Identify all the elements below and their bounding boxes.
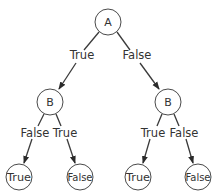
leaf-left-true: True: [6, 164, 32, 190]
leaf-left-false: False: [67, 164, 93, 190]
edge-arrow: [186, 139, 193, 163]
edge-arrow: [140, 63, 159, 89]
node-left-b: B: [37, 89, 63, 115]
edge-label-false: False: [123, 48, 152, 62]
edge-label-false: False: [21, 126, 50, 140]
node-label: True: [6, 171, 31, 184]
edge-arrow: [59, 63, 76, 89]
edge-arrow: [67, 139, 75, 163]
decision-tree-diagram: True False False True True False A B B: [0, 0, 220, 196]
edge-left-lr: True: [52, 114, 77, 163]
node-right-b: B: [155, 89, 181, 115]
edge-line: [56, 114, 61, 126]
node-root-a: A: [95, 9, 121, 35]
edge-label-true: True: [140, 126, 165, 140]
edge-root-left: True: [59, 32, 99, 89]
edge-left-ll: False: [21, 114, 50, 163]
node-label: A: [104, 16, 112, 29]
edge-line: [157, 114, 162, 126]
edge-line: [174, 114, 179, 126]
node-label: False: [186, 171, 211, 184]
node-label: True: [125, 171, 150, 184]
node-label: False: [68, 171, 93, 184]
edge-arrow: [143, 139, 150, 163]
node-label: B: [46, 96, 54, 109]
edge-label-true: True: [52, 126, 77, 140]
edge-right-rr: False: [170, 114, 199, 163]
edge-arrow: [24, 139, 32, 163]
edge-label-true: True: [69, 48, 94, 62]
edge-line: [38, 114, 44, 126]
leaf-right-true: True: [125, 164, 151, 190]
leaf-right-false: False: [185, 164, 211, 190]
node-label: B: [164, 96, 172, 109]
edge-root-right: False: [117, 32, 159, 89]
edge-label-false: False: [170, 126, 199, 140]
edge-right-rl: True: [140, 114, 165, 163]
